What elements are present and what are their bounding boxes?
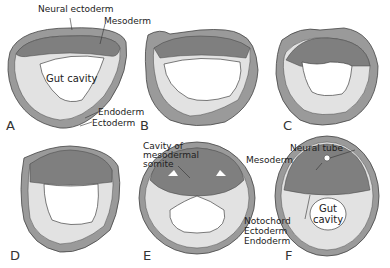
label-ectoderm-a: Ectoderm [92,118,135,128]
label-cavity-somite-3: somite [143,159,174,169]
panel-label-d: D [10,248,20,263]
label-endoderm-f: Endoderm [244,236,290,246]
label-notochord: Notochord [244,216,291,226]
label-gut-cavity-a: Gut cavity [46,73,97,84]
label-gut-cavity-f: Gutcavity [312,203,344,225]
panel-label-a: A [6,118,15,133]
label-neural-tube: Neural tube [290,143,343,153]
label-mesoderm-f: Mesoderm [246,155,293,165]
label-neural-ectoderm: Neural ectoderm [38,4,114,14]
label-ectoderm-f: Ectoderm [244,226,287,236]
section-c [276,28,378,125]
embryo-cross-sections-diagram [0,0,390,268]
label-endoderm-a: Endoderm [98,107,144,117]
section-d [21,146,120,252]
section-b [145,30,258,126]
section-f [275,136,379,256]
panel-label-e: E [143,248,151,263]
label-mesoderm-a: Mesoderm [104,16,151,26]
panel-label-c: C [283,118,292,133]
panel-label-f: F [285,248,292,263]
panel-label-b: B [140,118,149,133]
